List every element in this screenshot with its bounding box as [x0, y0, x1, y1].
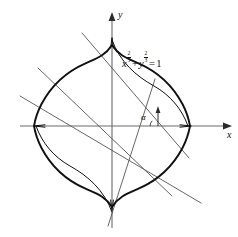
y-axis-arrowhead — [109, 12, 116, 21]
angle-arc — [150, 121, 152, 126]
equation-label: x23+y23=1 — [122, 52, 161, 69]
astroid-figure: y x α x23+y23=1 — [0, 0, 238, 237]
astroid-arc-lower-left — [36, 126, 112, 212]
x-axis-label: x — [227, 130, 231, 140]
equation-exp-y-denominator: 3 — [144, 57, 148, 64]
angle-tick-arrowhead — [156, 106, 161, 113]
angle-alpha-label: α — [141, 113, 146, 122]
equation-equals: = — [149, 58, 155, 69]
tangent-lines — [20, 33, 201, 226]
tangent-line-3 — [20, 96, 201, 203]
equation-exp-x-numerator: 2 — [127, 51, 131, 57]
equation-plus: + — [132, 58, 138, 69]
equation-exponent-y: 23 — [144, 51, 148, 63]
tangent-line-2 — [38, 68, 172, 196]
x-axis — [20, 123, 232, 130]
equation-rhs: 1 — [156, 58, 161, 69]
equation-base-y: y — [139, 58, 144, 69]
equation-exp-x-denominator: 3 — [127, 57, 131, 64]
equation-base-x: x — [122, 58, 127, 69]
equation-exp-y-numerator: 2 — [144, 51, 148, 57]
equation-exponent-x: 23 — [127, 51, 131, 63]
y-axis-label: y — [118, 10, 122, 20]
figure-canvas — [0, 0, 238, 237]
